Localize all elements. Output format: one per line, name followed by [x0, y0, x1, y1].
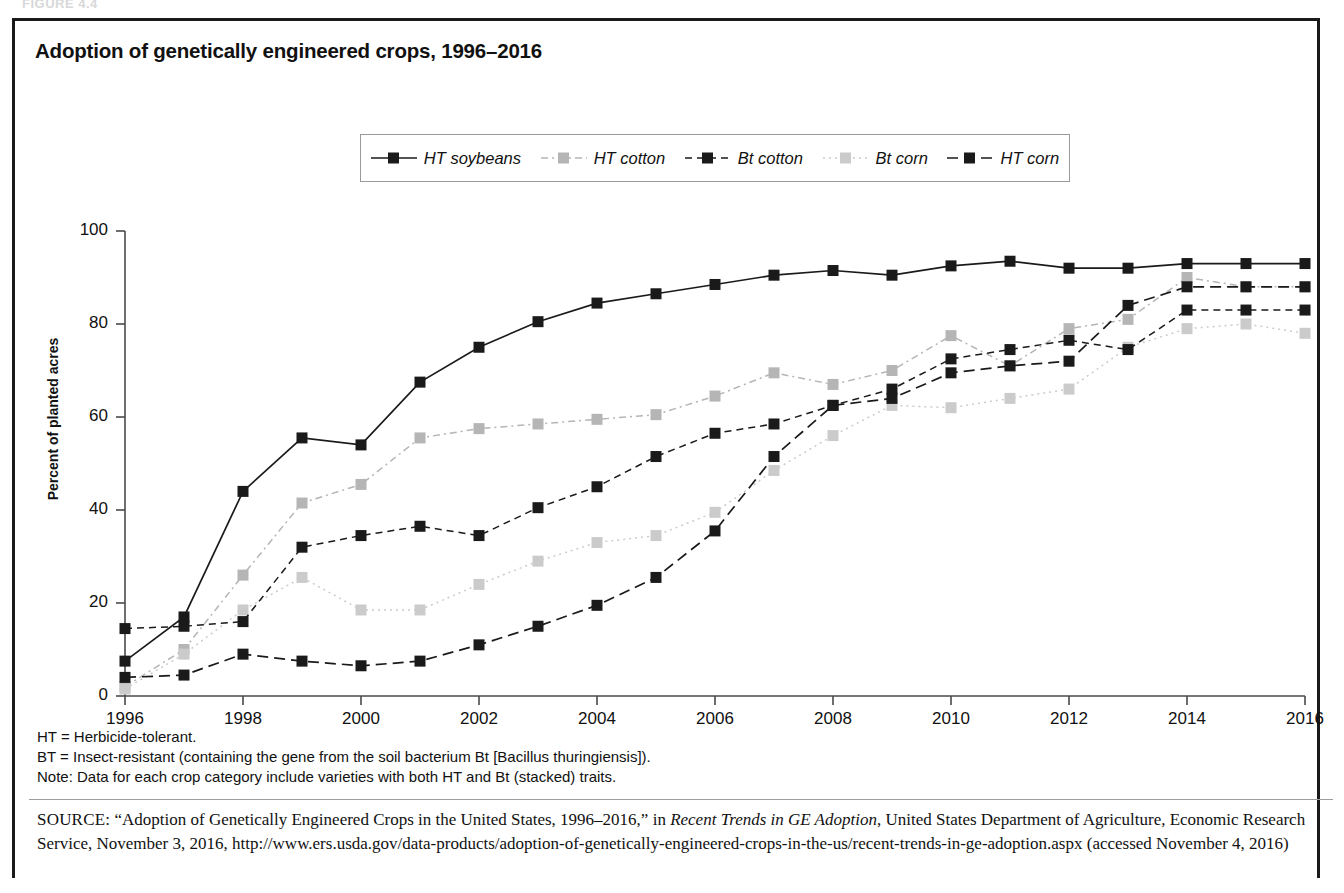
x-tick-label: 2004 [562, 709, 632, 729]
series-ht-cotton [120, 272, 1311, 692]
data-point [1241, 258, 1252, 269]
data-point [297, 542, 308, 553]
y-tick-label: 0 [64, 685, 108, 705]
data-point [1300, 328, 1311, 339]
legend-swatch-icon [685, 151, 731, 165]
data-point [533, 621, 544, 632]
chart-legend: HT soybeansHT cottonBt cottonBt cornHT c… [360, 134, 1070, 182]
data-point [1005, 360, 1016, 371]
x-tick-label: 2002 [444, 709, 514, 729]
x-tick-label: 2014 [1152, 709, 1222, 729]
x-tick-label: 2010 [916, 709, 986, 729]
source-part1: “Adoption of Genetically Engineered Crop… [110, 810, 670, 829]
y-tick-label: 60 [64, 406, 108, 426]
data-point [828, 400, 839, 411]
series-ht-corn [120, 281, 1311, 683]
x-tick-label: 2016 [1270, 709, 1340, 729]
data-point [651, 530, 662, 541]
data-point [1064, 356, 1075, 367]
x-tick-label: 2000 [326, 709, 396, 729]
data-point [828, 265, 839, 276]
data-point [946, 367, 957, 378]
data-point [238, 604, 249, 615]
legend-swatch-icon [371, 151, 417, 165]
y-tick-label: 80 [64, 313, 108, 333]
data-point [828, 379, 839, 390]
legend-item-ht-corn[interactable]: HT corn [947, 149, 1059, 168]
data-point [710, 391, 721, 402]
legend-item-bt-corn[interactable]: Bt corn [823, 149, 928, 168]
data-point [1064, 335, 1075, 346]
data-point [179, 621, 190, 632]
footnote-bt: BT = Insect-resistant (containing the ge… [37, 747, 651, 767]
data-point [120, 684, 131, 695]
series-bt-cotton [120, 305, 1311, 635]
legend-item-ht-cotton[interactable]: HT cotton [541, 149, 666, 168]
data-point [651, 451, 662, 462]
x-tick-label: 2006 [680, 709, 750, 729]
data-point [1123, 300, 1134, 311]
data-point [651, 572, 662, 583]
data-point [297, 656, 308, 667]
data-point [179, 649, 190, 660]
source-italic-title: Recent Trends in GE Adoption [670, 810, 877, 829]
legend-label: Bt cotton [738, 149, 803, 168]
y-tick-label: 100 [64, 220, 108, 240]
chart-plot-area: Percent of planted acres 020406080100199… [15, 21, 1323, 721]
data-point [238, 570, 249, 581]
data-point [1005, 393, 1016, 404]
data-point [356, 479, 367, 490]
source-citation: SOURCE: “Adoption of Genetically Enginee… [37, 808, 1307, 855]
data-point [474, 530, 485, 541]
data-point [887, 393, 898, 404]
data-point [474, 639, 485, 650]
data-point [297, 498, 308, 509]
y-tick-label: 20 [64, 592, 108, 612]
data-point [356, 660, 367, 671]
data-point [1300, 281, 1311, 292]
data-point [828, 430, 839, 441]
legend-item-bt-cotton[interactable]: Bt cotton [685, 149, 803, 168]
data-point [946, 330, 957, 341]
data-point [297, 432, 308, 443]
legend-label: HT cotton [594, 149, 666, 168]
legend-label: Bt corn [876, 149, 928, 168]
data-point [592, 537, 603, 548]
data-point [592, 414, 603, 425]
data-point [1300, 258, 1311, 269]
data-point [120, 656, 131, 667]
data-point [1300, 305, 1311, 316]
series-bt-corn [120, 319, 1311, 695]
data-point [769, 270, 780, 281]
data-point [533, 502, 544, 513]
data-point [179, 644, 190, 655]
data-point [356, 604, 367, 615]
source-prefix: SOURCE: [37, 810, 110, 829]
data-point [946, 402, 957, 413]
legend-swatch-icon [947, 151, 993, 165]
data-point [1241, 319, 1252, 330]
data-point [238, 649, 249, 660]
data-point [710, 279, 721, 290]
data-point [1182, 323, 1193, 334]
chart-svg [15, 21, 1323, 721]
data-point [710, 507, 721, 518]
x-tick-label: 2008 [798, 709, 868, 729]
data-point [415, 656, 426, 667]
series-ht-soybeans [120, 256, 1311, 667]
data-point [769, 451, 780, 462]
data-point [1182, 305, 1193, 316]
data-point [828, 400, 839, 411]
footnote-note: Note: Data for each crop category includ… [37, 767, 651, 787]
data-point [1123, 314, 1134, 325]
data-point [887, 270, 898, 281]
data-point [887, 365, 898, 376]
data-point [1064, 263, 1075, 274]
data-point [238, 616, 249, 627]
data-point [1123, 263, 1134, 274]
x-tick-label: 1996 [90, 709, 160, 729]
data-point [474, 423, 485, 434]
legend-swatch-icon [823, 151, 869, 165]
data-point [297, 572, 308, 583]
legend-item-ht-soybeans[interactable]: HT soybeans [371, 149, 521, 168]
